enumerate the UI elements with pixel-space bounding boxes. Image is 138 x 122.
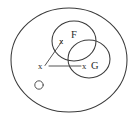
set-g-circle [68, 40, 110, 78]
x-in-f-label: x [59, 36, 64, 46]
set-g-label: G [91, 60, 99, 71]
set-theory-diagram: x F x G x [0, 0, 138, 122]
x-in-g-label: x [82, 61, 87, 71]
point-o-marker [35, 81, 43, 89]
set-f-label: F [71, 29, 77, 40]
diagram-canvas: x F x G x [0, 0, 138, 122]
x-outside-label: x [38, 61, 43, 71]
